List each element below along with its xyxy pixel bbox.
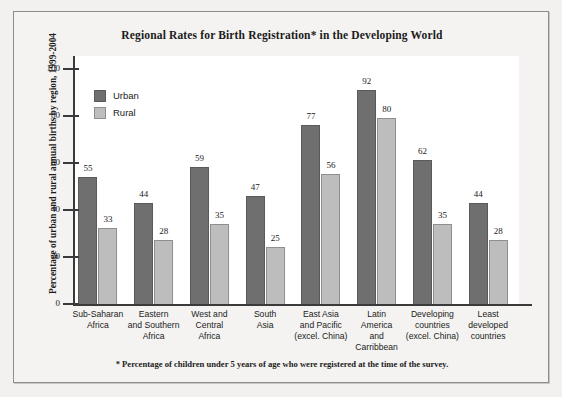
bar-rural <box>210 224 229 306</box>
bar-value-label: 33 <box>93 214 123 224</box>
bar-urban <box>469 203 488 306</box>
bar-value-label: 28 <box>483 226 513 236</box>
y-tick-label: 40 <box>30 204 60 214</box>
bar-rural <box>321 174 340 306</box>
x-category-label: SouthAsia <box>237 309 293 331</box>
bar-value-label: 56 <box>316 160 346 170</box>
y-tick-label: 60 <box>30 157 60 167</box>
bar-value-label: 35 <box>204 210 234 220</box>
bar-value-label: 62 <box>407 146 437 156</box>
bar-value-label: 59 <box>184 153 214 163</box>
bar-urban <box>190 167 209 306</box>
bar-urban <box>246 196 265 306</box>
bar-value-label: 77 <box>296 111 326 121</box>
bar-value-label: 55 <box>73 163 103 173</box>
bar-rural <box>154 240 173 306</box>
bar-value-label: 80 <box>372 104 402 114</box>
y-tick-label: 0 <box>30 298 60 308</box>
bar-urban <box>413 160 432 306</box>
bar-value-label: 92 <box>352 76 382 86</box>
x-axis-line <box>73 304 532 306</box>
x-category-label: Easternand SouthernAfrica <box>126 309 182 342</box>
chart-card: Regional Rates for Birth Registration* i… <box>13 11 549 383</box>
legend-label-rural: Rural <box>113 107 136 118</box>
bar-urban <box>357 90 376 306</box>
x-category-label: Developingcountries(excel. China) <box>405 309 461 342</box>
legend-swatch-rural-icon <box>94 107 106 119</box>
x-category-label: Leastdevelopedcountries <box>460 309 516 342</box>
bar-rural <box>433 224 452 306</box>
bar-urban <box>134 203 153 306</box>
bar-rural <box>377 118 396 306</box>
y-tick-label: 80 <box>30 110 60 120</box>
bar-value-label: 25 <box>260 233 290 243</box>
bar-value-label: 28 <box>149 226 179 236</box>
bar-urban <box>301 125 320 306</box>
bar-rural <box>98 228 117 306</box>
legend-item-rural: Rural <box>94 105 139 120</box>
bar-value-label: 47 <box>240 182 270 192</box>
y-tick-mark <box>63 68 79 70</box>
y-tick-mark <box>63 256 79 258</box>
legend: Urban Rural <box>94 88 139 122</box>
bar-value-label: 44 <box>129 189 159 199</box>
y-tick-mark <box>63 162 79 164</box>
x-category-label: West andCentralAfrica <box>182 309 238 342</box>
legend-swatch-urban-icon <box>94 90 106 102</box>
y-axis-line <box>73 56 75 306</box>
bar-rural <box>489 240 508 306</box>
chart-page: Regional Rates for Birth Registration* i… <box>0 0 562 397</box>
y-tick-mark <box>63 303 79 305</box>
chart-footnote: * Percentage of children under 5 years o… <box>14 359 550 369</box>
x-axis-category-labels: Sub-SaharanAfricaEasternand SouthernAfri… <box>73 309 532 359</box>
y-tick-mark <box>63 209 79 211</box>
x-category-label: East Asiaand Pacific(excel. China) <box>293 309 349 342</box>
y-tick-label: 100 <box>30 63 60 73</box>
x-category-label: LatinAmericaandCarribbean <box>349 309 405 353</box>
y-tick-label: 20 <box>30 251 60 261</box>
legend-item-urban: Urban <box>94 88 139 103</box>
legend-label-urban: Urban <box>113 90 139 101</box>
bar-rural <box>266 247 285 306</box>
y-tick-mark <box>63 115 79 117</box>
chart-title: Regional Rates for Birth Registration* i… <box>14 29 550 41</box>
x-category-label: Sub-SaharanAfrica <box>70 309 126 331</box>
bar-urban <box>78 177 97 306</box>
bar-value-label: 44 <box>463 189 493 199</box>
plot-area: Urban Rural 5533442859354725775692806235… <box>73 56 519 305</box>
bar-value-label: 35 <box>427 210 457 220</box>
